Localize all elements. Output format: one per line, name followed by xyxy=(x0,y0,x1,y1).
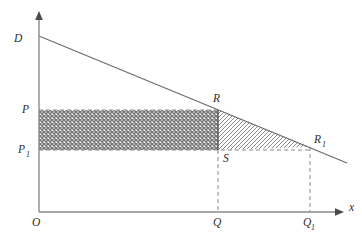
label-S: S xyxy=(223,152,229,164)
label-R1: R 1 xyxy=(313,133,326,149)
x-axis-arrow-icon xyxy=(335,208,344,216)
label-Q: Q xyxy=(213,216,222,228)
svg-text:1: 1 xyxy=(311,223,315,232)
supply-demand-figure: D P P 1 R R 1 S O Q Q 1 x xyxy=(0,0,362,247)
label-O: O xyxy=(32,216,41,228)
label-R: R xyxy=(212,92,220,104)
svg-text:1: 1 xyxy=(322,140,326,149)
label-P1: P 1 xyxy=(17,143,30,159)
region-rectangle-P-P1-S-R xyxy=(39,110,218,150)
svg-text:1: 1 xyxy=(26,150,30,159)
diagram-canvas: D P P 1 R R 1 S O Q Q 1 x xyxy=(0,0,362,247)
shaded-regions xyxy=(39,110,310,150)
label-Q1: Q 1 xyxy=(303,216,315,232)
svg-text:P: P xyxy=(17,143,25,155)
svg-text:R: R xyxy=(313,133,321,145)
y-axis-arrow-icon xyxy=(35,11,43,20)
label-P: P xyxy=(21,103,29,115)
label-x-axis: x xyxy=(348,201,355,213)
label-D: D xyxy=(13,32,23,44)
